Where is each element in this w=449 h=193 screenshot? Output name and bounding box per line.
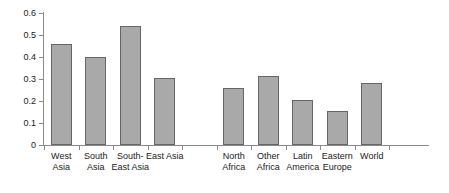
y-tick-label: 0 bbox=[8, 141, 36, 150]
x-tick-mark bbox=[44, 146, 45, 150]
bar bbox=[85, 57, 106, 145]
bar bbox=[361, 83, 382, 145]
x-tick-mark bbox=[113, 146, 114, 150]
bar bbox=[120, 26, 141, 145]
y-tick-label: 0.3 bbox=[8, 75, 36, 84]
x-tick-mark bbox=[79, 146, 80, 150]
y-tick-label: 0.1 bbox=[8, 119, 36, 128]
bar bbox=[154, 78, 175, 145]
x-tick-mark bbox=[148, 146, 149, 150]
plot-area bbox=[44, 13, 389, 145]
x-tick-mark bbox=[389, 146, 390, 150]
x-axis-line bbox=[43, 145, 429, 146]
bar bbox=[223, 88, 244, 145]
category-label: East Asia bbox=[132, 151, 198, 162]
bar-chart: 00.10.20.30.40.50.6 West AsiaSouth AsiaS… bbox=[0, 0, 449, 193]
bar bbox=[292, 100, 313, 145]
x-tick-mark bbox=[217, 146, 218, 150]
bar bbox=[51, 44, 72, 145]
x-tick-mark bbox=[251, 146, 252, 150]
x-tick-mark bbox=[182, 146, 183, 150]
y-tick-label: 0.4 bbox=[8, 53, 36, 62]
x-tick-mark bbox=[286, 146, 287, 150]
y-tick-label: 0.5 bbox=[8, 31, 36, 40]
category-label: World bbox=[339, 151, 405, 162]
bar bbox=[327, 111, 348, 145]
bar bbox=[258, 76, 279, 145]
y-tick-label: 0.6 bbox=[8, 9, 36, 18]
x-tick-mark bbox=[355, 146, 356, 150]
y-tick-label: 0.2 bbox=[8, 97, 36, 106]
x-tick-mark bbox=[320, 146, 321, 150]
